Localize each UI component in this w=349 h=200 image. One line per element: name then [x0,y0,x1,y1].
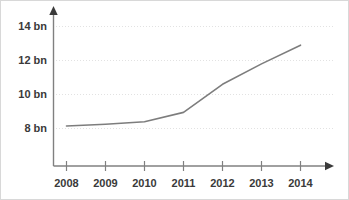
x-tick-label-2008: 2008 [54,177,78,189]
y-tick-label-14bn: 14 bn [18,20,47,32]
y-axis-arrow-icon [49,6,57,15]
y-axis [49,6,57,166]
y-tick-label-8bn: 8 bn [24,122,47,134]
gridlines [53,27,333,129]
line-chart: 14 bn 12 bn 10 bn 8 bn 2008 2009 2010 20… [0,0,349,200]
x-tick-labels: 2008 2009 2010 2011 2012 2013 2014 [54,177,313,189]
data-line-series [67,45,301,126]
x-tick-label-2011: 2011 [172,177,196,189]
chart-canvas: 14 bn 12 bn 10 bn 8 bn 2008 2009 2010 20… [1,1,349,200]
y-tick-label-10bn: 10 bn [18,88,47,100]
x-tick-label-2010: 2010 [132,177,156,189]
x-tick-label-2009: 2009 [93,177,117,189]
x-tick-label-2014: 2014 [288,177,313,189]
y-tick-label-12bn: 12 bn [18,54,47,66]
x-tick-label-2013: 2013 [249,177,273,189]
x-axis [54,162,335,170]
x-axis-arrow-icon [325,162,334,170]
x-tick-label-2012: 2012 [210,177,234,189]
y-tick-labels: 14 bn 12 bn 10 bn 8 bn [18,20,47,134]
